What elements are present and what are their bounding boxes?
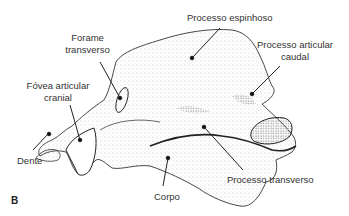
label-fovea-articular-cranial-line2: cranial — [18, 92, 98, 103]
label-forame-transverso-line1: Forame — [60, 32, 115, 43]
label-corpo: Corpo — [154, 191, 180, 202]
label-processo-espinhoso: Processo espinhoso — [187, 12, 273, 23]
label-dente: Dente — [17, 155, 42, 166]
label-fovea-articular-cranial-line1: Fóvea articular — [18, 80, 98, 91]
label-processo-transverso: Processo transverso — [227, 174, 314, 185]
label-forame-transverso-line2: transverso — [60, 44, 115, 55]
label-processo-articular-caudal-line1: Processo articular — [245, 39, 345, 50]
panel-letter: B — [11, 195, 18, 206]
label-processo-articular-caudal-line2: caudal — [245, 51, 345, 62]
